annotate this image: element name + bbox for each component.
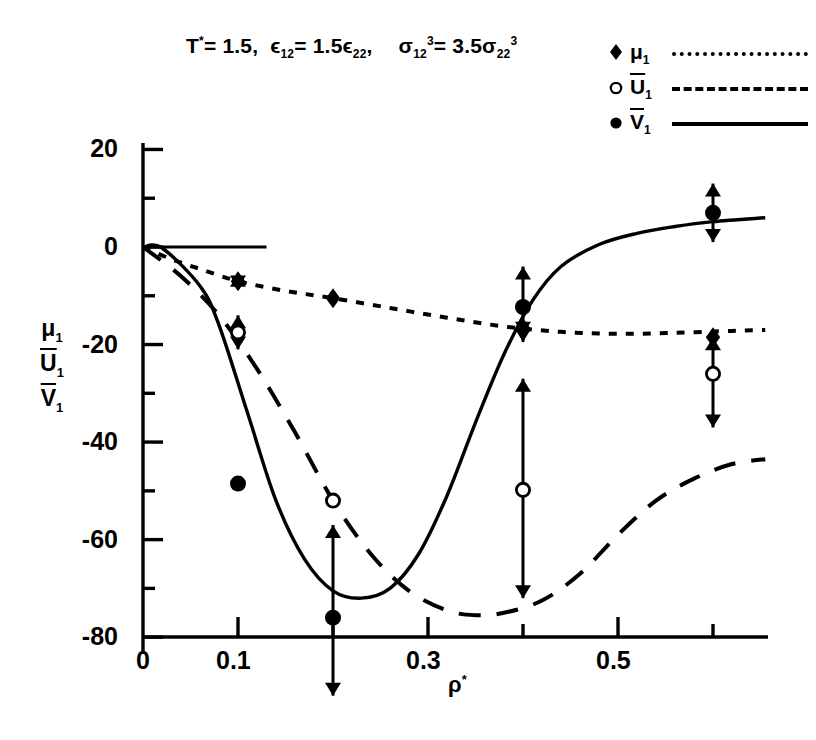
- data-point-circle-filled: [705, 205, 721, 221]
- error-bar-arrow-down: [515, 585, 531, 598]
- plot-area: [0, 0, 816, 740]
- error-bar-arrow-up: [705, 184, 721, 197]
- marker-layer: [230, 184, 721, 696]
- error-bar-arrow-up: [515, 379, 531, 392]
- data-point-circle-filled: [515, 299, 531, 315]
- error-bar-arrow-up: [325, 525, 341, 538]
- data-point-diamond-filled: [326, 288, 340, 308]
- error-bar-arrow-up: [515, 267, 531, 280]
- error-bar-arrow-down: [705, 229, 721, 242]
- error-bar-arrow-down: [325, 683, 341, 696]
- data-point-diamond-filled: [231, 271, 245, 291]
- data-point-circle-open: [516, 483, 529, 496]
- chart-figure: T*= 1.5,ϵ12= 1.5ϵ22,σ123= 3.5σ223 μ1 U1 …: [0, 0, 816, 740]
- series-curve-U1: [143, 247, 765, 615]
- error-bar-arrow-down: [705, 414, 721, 427]
- data-point-circle-filled: [230, 476, 246, 492]
- data-point-circle-open: [706, 367, 719, 380]
- axis-layer: [143, 143, 768, 653]
- data-point-circle-open: [326, 494, 339, 507]
- data-point-circle-filled: [325, 610, 341, 626]
- data-point-circle-open: [231, 326, 244, 339]
